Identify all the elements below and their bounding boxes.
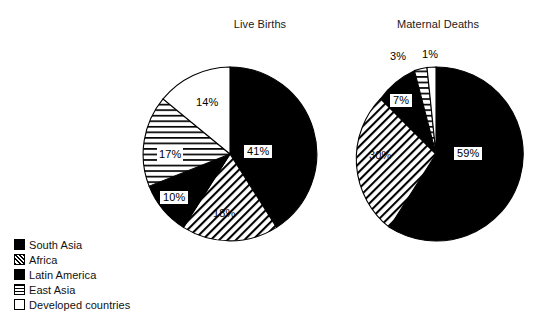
pie-right-label-developed-countries: 1% <box>422 48 438 60</box>
legend-label-africa: Africa <box>29 254 57 266</box>
pie-chart-live-births: 41% 18% 10% 17% 14% <box>141 64 319 244</box>
chart-title-maternal-deaths: Maternal Deaths <box>368 18 508 30</box>
legend-swatch-diagonal-hatch-icon <box>14 254 25 265</box>
pie-right-label-africa: 30% <box>369 149 391 161</box>
pie-right-label-east-asia: 3% <box>390 50 406 62</box>
pie-left-label-latin-america: 10% <box>159 190 189 205</box>
pie-left-label-south-asia: 41% <box>243 144 273 159</box>
legend-item-africa: Africa <box>14 252 204 267</box>
pie-left-label-developed-countries: 14% <box>196 96 218 108</box>
legend-item-south-asia: South Asia <box>14 237 204 252</box>
legend-swatch-horizontal-lines-icon <box>14 284 25 295</box>
pie-left-label-east-asia: 17% <box>157 148 183 161</box>
legend-item-latin-america: Latin America <box>14 267 204 282</box>
pie-chart-maternal-deaths: 59% 30% 7% 3% 1% <box>347 64 525 244</box>
pie-left-label-africa: 18% <box>213 207 235 219</box>
legend-item-east-asia: East Asia <box>14 282 204 297</box>
legend-label-developed-countries: Developed countries <box>29 299 130 311</box>
pie-right-label-south-asia: 59% <box>453 146 483 161</box>
legend: South Asia Africa Latin America East Asi… <box>14 237 204 312</box>
legend-swatch-solid-black-alt-icon <box>14 269 25 280</box>
legend-label-east-asia: East Asia <box>29 284 75 296</box>
legend-label-latin-america: Latin America <box>29 269 96 281</box>
legend-swatch-white-icon <box>14 299 25 310</box>
legend-swatch-solid-black-icon <box>14 239 25 250</box>
legend-item-developed-countries: Developed countries <box>14 297 204 312</box>
figure-pie-charts: Live Births Maternal Deaths <box>0 0 553 322</box>
legend-label-south-asia: South Asia <box>29 239 82 251</box>
chart-title-live-births: Live Births <box>190 18 330 30</box>
pie-right-label-latin-america: 7% <box>389 93 413 108</box>
